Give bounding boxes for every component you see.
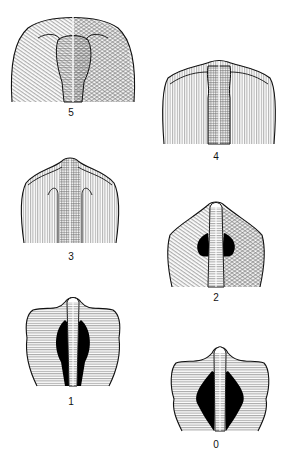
- illustration-grade-1: [23, 294, 123, 390]
- panel-grade-5: [8, 12, 138, 104]
- grade-label: 4: [206, 152, 226, 162]
- panel-grade-0: [168, 343, 272, 435]
- panel-grade-3: [18, 155, 122, 247]
- grade-label: 1: [61, 397, 81, 407]
- illustration-grade-3: [18, 155, 122, 247]
- illustration-grade-4: [160, 58, 278, 148]
- grade-label: 2: [206, 293, 226, 303]
- illustration-grade-2: [164, 199, 268, 291]
- panel-grade-4: [160, 58, 278, 148]
- grade-label: 3: [61, 252, 81, 262]
- illustration-grade-5: [8, 12, 138, 104]
- panel-grade-1: [23, 294, 123, 390]
- illustration-grade-0: [168, 343, 272, 435]
- panel-grade-2: [164, 199, 268, 291]
- grade-label: 0: [206, 440, 226, 450]
- grade-label: 5: [61, 108, 81, 118]
